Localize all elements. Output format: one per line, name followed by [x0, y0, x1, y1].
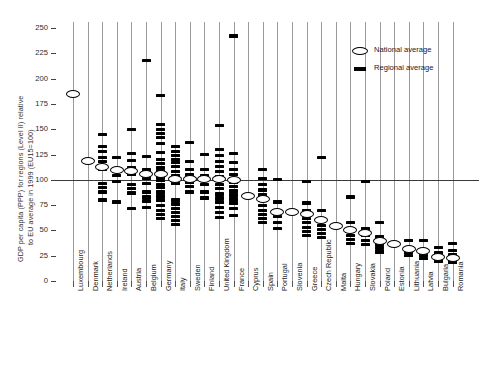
category-gridline: [263, 22, 264, 281]
x-tick-mark: [88, 281, 89, 287]
category-gridline: [190, 22, 191, 281]
regional-average-marker: [127, 207, 136, 210]
national-average-marker: [66, 90, 80, 98]
x-tick-mark: [146, 281, 147, 287]
regional-average-marker: [419, 257, 428, 260]
x-tick-mark: [219, 281, 220, 287]
regional-average-marker: [156, 179, 165, 182]
regional-average-marker: [215, 211, 224, 214]
regional-average-marker: [156, 194, 165, 197]
x-tick-label: Slovenia: [295, 263, 304, 291]
regional-average-marker: [200, 183, 209, 186]
x-tick-label: Luxembourg: [76, 250, 85, 291]
regional-average-marker: [302, 201, 311, 204]
regional-average-marker: [142, 190, 151, 193]
regional-average-marker: [215, 165, 224, 168]
x-tick-label: Spain: [266, 272, 275, 291]
regional-average-marker: [229, 193, 238, 196]
category-gridline: [88, 22, 89, 281]
regional-average-marker: [346, 221, 355, 224]
x-tick-label: Czech Republic: [324, 239, 333, 291]
regional-average-marker: [171, 215, 180, 218]
national-average-marker: [402, 245, 416, 253]
national-average-marker: [446, 254, 460, 262]
regional-average-marker: [156, 142, 165, 145]
national-average-marker: [95, 163, 109, 171]
x-tick-label: Poland: [383, 268, 392, 291]
regional-average-marker: [156, 151, 165, 154]
x-tick-mark: [102, 281, 103, 287]
regional-average-marker: [127, 128, 136, 131]
regional-average-marker: [258, 188, 267, 191]
legend-label-national: National average: [374, 45, 431, 54]
regional-average-marker: [156, 204, 165, 207]
regional-average-marker: [229, 161, 238, 164]
regional-average-marker: [156, 186, 165, 189]
regional-average-marker: [171, 202, 180, 205]
national-average-marker: [256, 195, 270, 203]
regional-average-marker: [171, 154, 180, 157]
regional-average-marker: [215, 183, 224, 186]
regional-average-marker: [229, 168, 238, 171]
regional-average-marker: [302, 221, 311, 224]
regional-average-marker: [142, 182, 151, 185]
regional-average-marker: [98, 150, 107, 153]
regional-average-marker: [229, 189, 238, 192]
regional-average-marker: [171, 150, 180, 153]
x-tick-mark: [131, 281, 132, 287]
x-tick-label: Finland: [207, 267, 216, 291]
legend-item-national: National average: [352, 42, 477, 60]
regional-average-marker: [156, 136, 165, 139]
x-tick-label: Greece: [310, 267, 319, 291]
regional-average-marker: [273, 178, 282, 181]
x-tick-mark: [336, 281, 337, 287]
regional-average-marker: [215, 200, 224, 203]
regional-average-marker: [171, 223, 180, 226]
category-gridline: [117, 22, 118, 281]
regional-average-marker: [448, 249, 457, 252]
legend-label-regional: Regional average: [374, 63, 434, 72]
x-tick-mark: [409, 281, 410, 287]
regional-average-marker: [185, 160, 194, 163]
regional-average-marker: [258, 213, 267, 216]
regional-average-marker: [361, 243, 370, 246]
regional-average-marker: [98, 156, 107, 159]
regional-average-marker: [185, 168, 194, 171]
x-tick-label: Portugal: [280, 263, 289, 291]
regional-average-marker: [171, 165, 180, 168]
category-gridline: [321, 22, 322, 281]
x-tick-mark: [204, 281, 205, 287]
regional-average-marker: [142, 195, 151, 198]
regional-average-marker: [200, 153, 209, 156]
regional-average-marker: [215, 196, 224, 199]
regional-average-marker: [215, 206, 224, 209]
chart-legend: National average Regional average: [352, 42, 477, 78]
regional-average-marker: [171, 170, 180, 173]
chart-figure: GDP per capita (PPP) for regions (Level …: [0, 0, 483, 366]
x-tick-mark: [263, 281, 264, 287]
regional-average-marker: [258, 209, 267, 212]
regional-average-marker: [317, 228, 326, 231]
category-gridline: [219, 22, 220, 281]
regional-average-marker: [258, 221, 267, 224]
regional-average-marker: [171, 198, 180, 201]
x-tick-label: Lithuania: [412, 261, 421, 291]
regional-average-marker: [346, 195, 355, 198]
regional-average-marker: [346, 234, 355, 237]
x-tick-label: Romania: [456, 261, 465, 291]
national-average-marker: [197, 175, 211, 183]
regional-average-marker: [302, 230, 311, 233]
x-tick-mark: [292, 281, 293, 287]
regional-average-marker: [273, 227, 282, 230]
filled-dash-icon: [354, 67, 366, 71]
regional-average-marker: [127, 183, 136, 186]
x-tick-mark: [350, 281, 351, 287]
x-tick-mark: [190, 281, 191, 287]
regional-average-marker: [258, 168, 267, 171]
regional-average-marker: [98, 133, 107, 136]
national-average-marker: [285, 208, 299, 216]
regional-average-marker: [171, 161, 180, 164]
regional-average-marker: [258, 204, 267, 207]
national-average-marker: [139, 170, 153, 178]
regional-average-marker: [142, 155, 151, 158]
